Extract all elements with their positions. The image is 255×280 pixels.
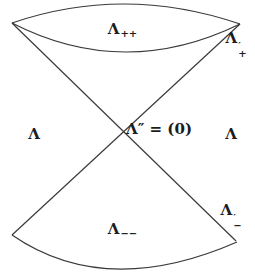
label-lambda-prime-plus-scripts: ′+ xyxy=(238,42,246,58)
label-lambda-left-base: Λ xyxy=(28,125,40,143)
label-lambda-prime-plus: Λ′+ xyxy=(225,31,246,58)
label-lambda-prime-minus-base: Λ xyxy=(220,201,232,219)
label-lambda-double-prime-zero-text: Λ″ = (0) xyxy=(126,120,192,138)
lorentz-group-cone-diagram: Λ++ Λ′+ Λ Λ″ = (0) Λ Λ′− Λ−− xyxy=(0,0,255,280)
label-lambda-double-prime-zero: Λ″ = (0) xyxy=(126,122,192,137)
label-lambda-prime-minus-sign: − xyxy=(233,221,241,230)
label-lambda-right: Λ xyxy=(225,127,237,142)
label-lambda-minus-minus-subscript: −− xyxy=(120,228,137,239)
label-lambda-plus-plus-subscript: ++ xyxy=(120,28,137,39)
label-lambda-left: Λ xyxy=(28,127,40,142)
label-lambda-prime-plus-base: Λ xyxy=(225,29,237,47)
label-lambda-prime-minus: Λ′− xyxy=(220,203,241,230)
label-lambda-prime-plus-sign: + xyxy=(238,49,246,58)
label-lambda-minus-minus-base: Λ xyxy=(108,220,120,238)
label-lambda-prime-minus-scripts: ′− xyxy=(233,214,241,230)
label-lambda-plus-plus-base: Λ xyxy=(108,20,120,38)
label-lambda-right-base: Λ xyxy=(225,125,237,143)
label-lambda-minus-minus: Λ−− xyxy=(108,222,136,237)
lower-cone-bottom-arc xyxy=(12,235,237,269)
label-lambda-plus-plus: Λ++ xyxy=(108,22,136,37)
